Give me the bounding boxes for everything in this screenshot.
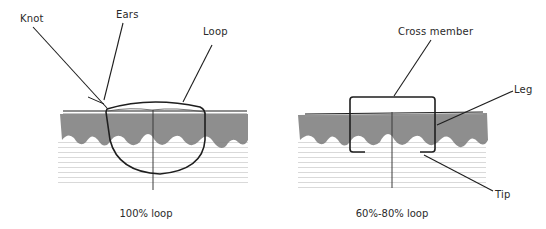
cross-member-leader-line xyxy=(394,40,431,96)
label-loop: Loop xyxy=(203,26,228,38)
loop-leader-line xyxy=(183,45,212,102)
knot-arrowhead xyxy=(88,97,104,104)
label-ears: Ears xyxy=(116,9,139,21)
caption-100-loop: 100% loop xyxy=(119,208,172,220)
panel-100-loop xyxy=(33,23,248,190)
label-knot: Knot xyxy=(20,13,44,25)
panel-60-80-loop xyxy=(298,40,513,191)
caption-60-80-loop: 60%-80% loop xyxy=(356,208,429,220)
label-cross-member: Cross member xyxy=(398,26,473,38)
label-tip: Tip xyxy=(495,189,511,201)
label-leg: Leg xyxy=(514,84,533,96)
knot-leader-line xyxy=(33,27,107,108)
ears-leader-line xyxy=(104,23,123,100)
